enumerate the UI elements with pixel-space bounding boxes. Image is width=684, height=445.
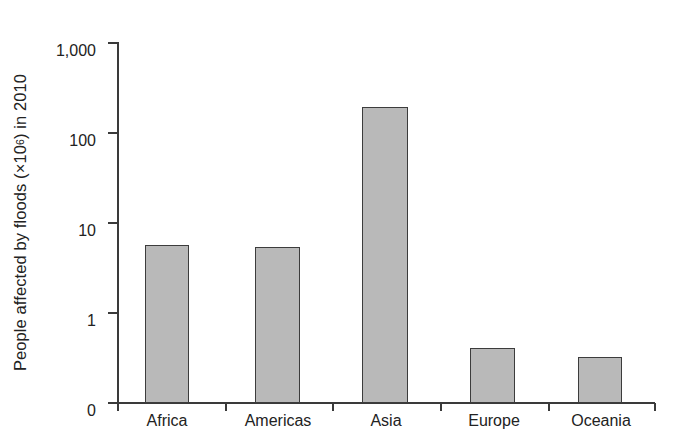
x-axis-label-asia: Asia <box>370 411 401 430</box>
y-tick-mark-100 <box>108 132 117 134</box>
x-tick-mark-4 <box>548 403 550 411</box>
x-tick-mark-1 <box>225 403 227 411</box>
bar-europe <box>470 348 515 403</box>
x-tick-mark-5 <box>654 403 656 411</box>
y-tick-mark-1 <box>108 312 117 314</box>
y-tick-label-1: 1 <box>87 313 100 329</box>
y-tick-label-10: 10 <box>78 223 100 239</box>
y-tick-label-1000: 1,000 <box>56 43 100 59</box>
x-axis-label-europe: Europe <box>468 411 520 430</box>
y-tick-mark-0 <box>108 402 117 404</box>
y-tick-mark-1000 <box>108 42 117 44</box>
y-axis-label-after: ) in 2010 <box>11 74 30 139</box>
y-tick-label-0: 0 <box>87 403 100 419</box>
y-axis-line <box>117 42 119 404</box>
y-axis-label-before: People affected by floods (×10 <box>11 145 30 371</box>
bar-asia <box>362 107 408 403</box>
flood-impact-bar-chart: People affected by floods (×106) in 2010… <box>0 0 684 445</box>
x-tick-mark-3 <box>440 403 442 411</box>
y-tick-mark-10 <box>108 222 117 224</box>
x-tick-mark-0 <box>117 403 119 411</box>
x-tick-mark-2 <box>332 403 334 411</box>
x-axis-label-africa: Africa <box>147 411 188 430</box>
bar-americas <box>255 247 300 403</box>
x-axis-label-oceania: Oceania <box>571 411 631 430</box>
bar-oceania <box>578 357 622 403</box>
bar-africa <box>145 245 189 403</box>
x-axis-label-americas: Americas <box>245 411 312 430</box>
y-tick-label-100: 100 <box>69 133 100 149</box>
